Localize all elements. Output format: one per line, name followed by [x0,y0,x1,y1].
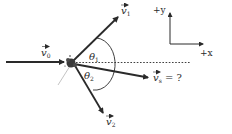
svg-text:v1: v1 [121,5,130,17]
vector-v2-label: v2 [106,116,116,128]
angle-theta2-label: θ2 [84,70,94,82]
vector-v1-label: v1 [121,5,130,17]
vector-v0-label: v0 [41,47,51,60]
angle-arc [93,38,115,90]
svg-text:vs = ?: vs = ? [153,72,182,84]
collision-diagram: v0 v1 vs = ? v2 θ1 θ2 +y +x [0,0,232,134]
vector-v1-arrow [73,17,118,61]
svg-text:v2: v2 [106,116,116,128]
y-axis-label: +y [153,5,167,15]
axes-indicator [170,13,203,44]
x-axis-label: +x [200,48,213,58]
svg-text:v0: v0 [41,47,51,59]
vector-vs-label: vs = ? [153,72,182,84]
angle-theta1-label: θ1 [89,51,99,63]
debris-line [58,66,70,85]
